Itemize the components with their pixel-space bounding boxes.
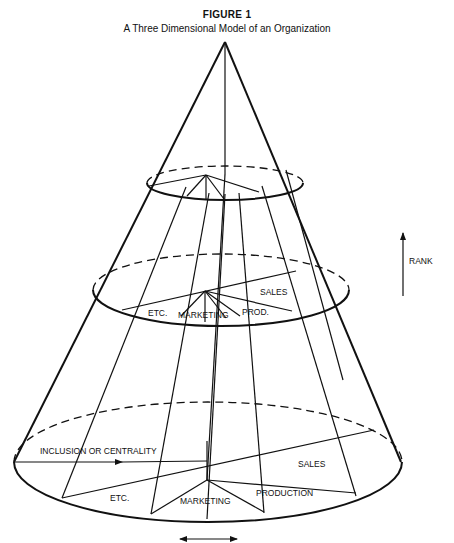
middle-label-sales: SALES [260, 287, 288, 297]
rank-axis-label: RANK [409, 256, 433, 266]
bottom-label-production: PRODUCTION [256, 488, 313, 498]
inclusion-axis-label: INCLUSION OR CENTRALITY [40, 446, 157, 456]
cone-outline [14, 42, 401, 462]
bottom-label-etc: ETC. [110, 493, 129, 503]
middle-label-marketing: MARKETING [178, 310, 229, 320]
organization-cone-diagram: SALES ETC. MARKETING PROD. INCLUSION OR … [0, 0, 454, 543]
rank-axis: RANK [403, 233, 433, 296]
bottom-level-labels: SALES ETC. MARKETING PRODUCTION [110, 459, 326, 506]
middle-label-production: PROD. [242, 307, 269, 317]
bottom-label-marketing: MARKETING [180, 496, 231, 506]
middle-label-etc: ETC. [148, 308, 167, 318]
bottom-label-sales: SALES [298, 459, 326, 469]
inclusion-axis: INCLUSION OR CENTRALITY [14, 446, 207, 462]
